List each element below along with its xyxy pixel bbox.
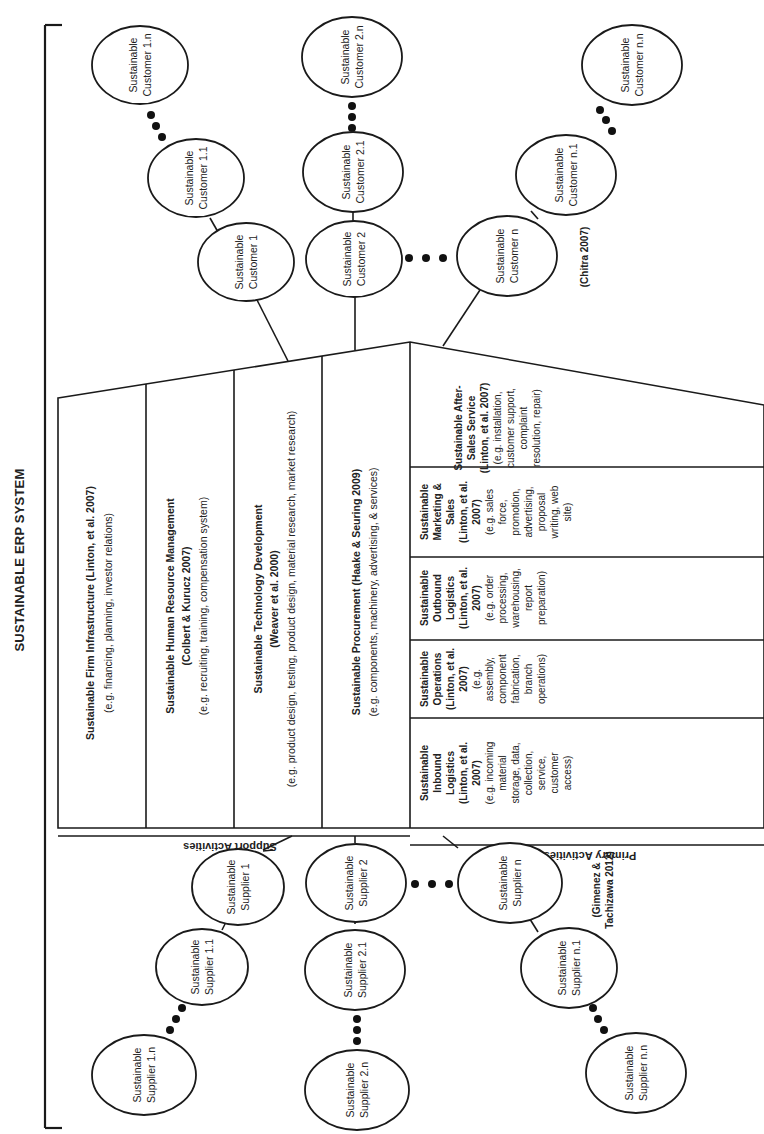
- svg-text:Customer n.n: Customer n.n: [633, 33, 645, 96]
- svg-text:(Colbert & Kurucz 2007): (Colbert & Kurucz 2007): [180, 546, 192, 665]
- svg-text:(e.g. recruiting, training, co: (e.g. recruiting, training, compensation…: [197, 497, 209, 715]
- svg-text:(Linton, et al.: (Linton, et al.: [458, 567, 469, 629]
- svg-text:Sustainable: Sustainable: [189, 939, 201, 994]
- svg-text:Sustainable After-: Sustainable After-: [453, 385, 464, 470]
- svg-text:Supplier 1.n: Supplier 1.n: [145, 1047, 157, 1103]
- svg-text:operations): operations): [536, 654, 547, 704]
- svg-text:(e.g.: (e.g.: [471, 669, 482, 689]
- svg-text:warehousing,: warehousing,: [510, 568, 521, 628]
- svg-text:(e.g. product design, testing,: (e.g. product design, testing, product d…: [285, 411, 297, 787]
- svg-text:Sustainable Procurement (Haake: Sustainable Procurement (Haake & Seuring…: [350, 469, 362, 715]
- svg-text:(Linton, et al.: (Linton, et al.: [458, 742, 469, 804]
- svg-text:storage, data,: storage, data,: [510, 742, 521, 803]
- svg-text:Logistics: Logistics: [445, 576, 456, 620]
- customer-node-n: Sustainable Customer n: [457, 216, 557, 296]
- svg-text:Sustainable: Sustainable: [419, 570, 430, 627]
- svg-text:branch: branch: [523, 664, 534, 695]
- svg-text:collection,: collection,: [523, 751, 534, 795]
- customer-citation: (Chitra 2007): [579, 227, 590, 288]
- svg-text:Supplier 1: Supplier 1: [239, 863, 251, 910]
- svg-text:(e.g. components, machinery, a: (e.g. components, machinery, advertising…: [367, 468, 379, 717]
- svg-text:Sustainable: Sustainable: [127, 37, 139, 92]
- svg-text:Sustainable: Sustainable: [225, 859, 237, 914]
- svg-text:Customer 1: Customer 1: [247, 235, 259, 289]
- svg-text:(e.g. financing, planning, inv: (e.g. financing, planning, investor rela…: [102, 513, 114, 713]
- svg-text:Sales Service: Sales Service: [466, 395, 477, 460]
- svg-text:(Linton, et al.: (Linton, et al.: [458, 481, 469, 543]
- svg-text:Customer 2: Customer 2: [355, 232, 367, 286]
- svg-text:Supplier n.1: Supplier n.1: [570, 940, 582, 996]
- supplier-node-n-1: Sustainable Supplier n.1: [521, 928, 617, 1008]
- svg-text:site): site): [562, 503, 573, 522]
- svg-text:2007): 2007): [471, 585, 482, 611]
- customer-node-1: Sustainable Customer 1: [198, 223, 294, 301]
- svg-text:writing, web: writing, web: [549, 485, 560, 539]
- supplier-node-2-1: Sustainable Supplier 2.1: [305, 930, 405, 1010]
- svg-text:Sustainable: Sustainable: [556, 940, 568, 995]
- supplier-node-1: Sustainable Supplier 1: [192, 849, 284, 925]
- svg-text:Sustainable Technology Develop: Sustainable Technology Development: [252, 504, 264, 693]
- svg-text:Sustainable Firm Infrastructur: Sustainable Firm Infrastructure (Linton,…: [84, 486, 96, 740]
- svg-text:(Gimenez &: (Gimenez &: [591, 862, 602, 917]
- svg-text:Sustainable: Sustainable: [233, 234, 245, 289]
- svg-text:Sustainable: Sustainable: [623, 1045, 635, 1100]
- svg-text:Customer n.1: Customer n.1: [567, 143, 579, 206]
- svg-text:material: material: [497, 755, 508, 791]
- svg-text:2007): 2007): [471, 499, 482, 525]
- svg-text:Sustainable: Sustainable: [343, 855, 355, 910]
- svg-text:processing,: processing,: [497, 572, 508, 623]
- svg-text:Operations: Operations: [432, 652, 443, 705]
- svg-text:2007): 2007): [471, 760, 482, 786]
- svg-text:Sustainable: Sustainable: [339, 29, 351, 84]
- svg-text:Supplier n: Supplier n: [511, 859, 523, 906]
- svg-text:fabrication,: fabrication,: [510, 655, 521, 704]
- svg-text:service,: service,: [536, 756, 547, 790]
- svg-text:Customer 1.1: Customer 1.1: [197, 146, 209, 209]
- svg-text:Sustainable: Sustainable: [183, 150, 195, 205]
- svg-text:complaint: complaint: [518, 406, 529, 449]
- svg-text:Sustainable: Sustainable: [419, 484, 430, 541]
- primary-activities-label: Primary Activities: [544, 850, 637, 862]
- customer-node-2-n: Sustainable Customer 2.n: [302, 17, 402, 97]
- svg-text:Inbound: Inbound: [432, 753, 443, 792]
- svg-text:preparation): preparation): [536, 571, 547, 625]
- supplier-node-1-1: Sustainable Supplier 1.1: [156, 929, 248, 1005]
- supplier-node-n-n: Sustainable Supplier n.n: [586, 1033, 686, 1113]
- supplier-node-1-n: Sustainable Supplier 1.n: [92, 1035, 196, 1115]
- svg-text:Sustainable: Sustainable: [340, 144, 352, 199]
- svg-text:Sustainable: Sustainable: [419, 651, 430, 708]
- customer-node-n-n: Sustainable Customer n.n: [582, 25, 682, 105]
- svg-text:force,: force,: [497, 499, 508, 524]
- customer-node-n-1: Sustainable Customer n.1: [516, 135, 616, 215]
- svg-text:(e.g. order: (e.g. order: [484, 574, 495, 621]
- svg-text:Sustainable: Sustainable: [419, 745, 430, 802]
- supplier-node-2-n: Sustainable Supplier 2.n: [305, 1050, 409, 1130]
- svg-text:access): access): [562, 756, 573, 790]
- supplier-node-n: Sustainable Supplier n: [458, 843, 562, 923]
- svg-text:assembly,: assembly,: [484, 657, 495, 701]
- svg-text:(e.g. installation,: (e.g. installation,: [492, 392, 503, 465]
- svg-text:Sustainable: Sustainable: [553, 147, 565, 202]
- svg-text:customer support,: customer support,: [505, 388, 516, 468]
- svg-text:(Linton, et al. 2007): (Linton, et al. 2007): [479, 383, 490, 474]
- customer-node-2: Sustainable Customer 2: [306, 221, 402, 297]
- svg-text:Sustainable Human Resource Man: Sustainable Human Resource Management: [164, 498, 176, 714]
- svg-text:(e.g. sales: (e.g. sales: [484, 489, 495, 535]
- supplier-node-2: Sustainable Supplier 2: [306, 844, 406, 922]
- svg-text:Supplier n.n: Supplier n.n: [637, 1045, 649, 1101]
- svg-text:promotion,: promotion,: [510, 488, 521, 535]
- svg-text:Customer n: Customer n: [508, 229, 520, 283]
- svg-text:customer: customer: [549, 752, 560, 794]
- svg-text:Sustainable: Sustainable: [342, 942, 354, 997]
- sustainable-erp-diagram: SUSTAINABLE ERP SYSTEM Support Activitie…: [0, 0, 764, 1134]
- svg-text:Logistics: Logistics: [445, 751, 456, 795]
- svg-text:Outbound: Outbound: [432, 574, 443, 622]
- svg-text:resolution, repair): resolution, repair): [531, 389, 542, 467]
- svg-text:Supplier 2.n: Supplier 2.n: [358, 1062, 370, 1118]
- svg-text:2007): 2007): [458, 666, 469, 692]
- svg-text:proposal: proposal: [536, 493, 547, 531]
- svg-text:Sustainable: Sustainable: [494, 228, 506, 283]
- svg-text:component: component: [497, 654, 508, 704]
- diagram-title: SUSTAINABLE ERP SYSTEM: [12, 468, 27, 651]
- svg-text:Customer 2.1: Customer 2.1: [354, 140, 366, 203]
